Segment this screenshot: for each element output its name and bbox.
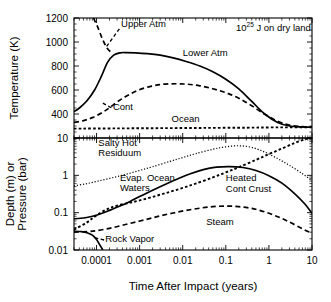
curve-label-steam: Steam xyxy=(206,216,234,227)
curve-label-upper-atm: Upper Atm xyxy=(121,18,166,29)
curve-label-ocean: Ocean xyxy=(172,113,200,124)
curve-label-evap-ocean-waters: Evap. OceanWaters xyxy=(120,172,175,194)
x-tick-label: 1 xyxy=(266,255,272,266)
curve-label-lower-atm: Lower Atm xyxy=(183,47,228,58)
top-y-tick-label: 600 xyxy=(51,85,68,96)
top-y-axis-title: Temperature (K) xyxy=(8,36,20,119)
bottom-y-ticks: 0.010.1110 xyxy=(49,133,312,256)
energy-annotation: 1025 J on dry land xyxy=(236,21,311,33)
curve-label-cont: Cont xyxy=(113,101,133,112)
x-tick-label: 10 xyxy=(306,255,318,266)
bottom-y-tick-label: 0.1 xyxy=(54,207,68,218)
bottom-y-tick-label: 10 xyxy=(57,133,69,144)
top-y-tick-label: 1200 xyxy=(46,13,69,24)
x-tick-label: 0.0001 xyxy=(81,255,112,266)
top-y-tick-label: 400 xyxy=(51,109,68,120)
impact-aftermath-figure: 0.00010.0010.010.1110400600800100012000.… xyxy=(0,0,331,302)
curve-label-heated-cont-crust: HeatedCont Crust xyxy=(226,172,272,194)
top-y-tick-label: 1000 xyxy=(46,37,69,48)
top-y-tick-label: 800 xyxy=(51,61,68,72)
bottom-y-tick-label: 0.01 xyxy=(49,245,69,256)
bottom-y-axis-title-line: Pressure (bar) xyxy=(16,157,28,231)
upper-atm-leader-line xyxy=(106,29,120,48)
bottom-y-tick-label: 1 xyxy=(62,170,68,181)
curve-upper-atm xyxy=(93,18,112,53)
bottom-y-axis-title-line: Depth (m) or xyxy=(4,162,16,227)
x-axis-title: Time After Impact (years) xyxy=(129,280,258,292)
figure-canvas: 0.00010.0010.010.1110400600800100012000.… xyxy=(0,0,331,302)
curve-ocean xyxy=(74,127,312,128)
x-tick-label: 0.001 xyxy=(127,255,152,266)
curve-heated-cont-crust xyxy=(74,167,312,219)
curve-rock-vapor xyxy=(74,231,103,250)
x-tick-label: 0.01 xyxy=(173,255,193,266)
top-panel-curves xyxy=(74,18,312,129)
x-tick-label: 0.1 xyxy=(219,255,233,266)
cont-leader-line xyxy=(101,102,112,108)
curve-label-rock-vapor: Rock Vapor xyxy=(105,233,154,244)
curve-label-salty-hot-residuum: Salty HotResiduum xyxy=(98,137,141,159)
